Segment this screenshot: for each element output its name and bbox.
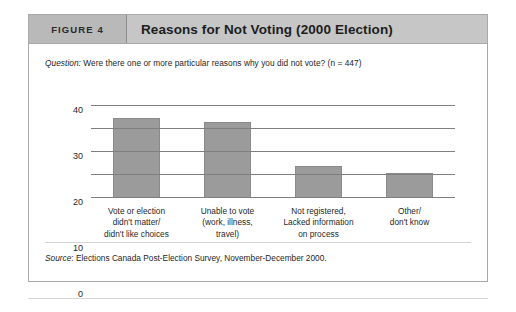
figure-page: FIGURE 4 Reasons for Not Voting (2000 El… (0, 0, 516, 312)
category-label: Other/don't know (364, 206, 455, 229)
question-lead: Question: (45, 58, 81, 68)
source-note: Source: Elections Canada Post-Election S… (45, 253, 327, 263)
category-label-line: didn't matter/ (91, 217, 182, 228)
bar (386, 173, 433, 198)
bar (204, 122, 251, 198)
category-label: Unable to vote(work, illness,travel) (182, 206, 273, 240)
question-annotation: Question: Were there one or more particu… (45, 58, 361, 68)
category-label-line: didn't like choices (91, 229, 182, 240)
category-label-line: Vote or election (91, 206, 182, 217)
category-label-line: Not registered, (273, 206, 364, 217)
figure-title: Reasons for Not Voting (2000 Election) (127, 15, 487, 43)
figure-number-label: FIGURE 4 (29, 15, 127, 43)
question-text: Were there one or more particular reason… (81, 58, 362, 68)
bar (113, 118, 160, 199)
category-label-line: on process (273, 229, 364, 240)
source-divider (45, 242, 471, 243)
source-lead: Source (45, 253, 71, 263)
category-label-line: Other/ (364, 206, 455, 217)
figure-body: Question: Were there one or more particu… (29, 44, 487, 281)
y-axis-tick-label: 40 (73, 105, 83, 106)
gridline: 30 (91, 128, 455, 129)
bar (295, 166, 342, 198)
plot-area: 010203040 (91, 106, 455, 198)
gridline: 0 (91, 197, 455, 198)
category-label-line: don't know (364, 217, 455, 228)
category-label: Not registered,Lacked informationon proc… (273, 206, 364, 240)
category-label: Vote or electiondidn't matter/didn't lik… (91, 206, 182, 240)
source-text: : Elections Canada Post-Election Survey,… (71, 253, 326, 263)
bar-chart: 010203040 Vote or electiondidn't matter/… (45, 106, 473, 248)
figure-header: FIGURE 4 Reasons for Not Voting (2000 El… (29, 15, 487, 44)
figure-box: FIGURE 4 Reasons for Not Voting (2000 El… (28, 14, 488, 282)
bars-layer (91, 106, 455, 198)
category-label-line: travel) (182, 229, 273, 240)
gridline: 20 (91, 151, 455, 152)
page-bottom-divider (28, 298, 488, 299)
gridline: 10 (91, 174, 455, 175)
gridline: 40 (91, 105, 455, 106)
category-label-line: Unable to vote (182, 206, 273, 217)
category-label-line: (work, illness, (182, 217, 273, 228)
category-label-line: Lacked information (273, 217, 364, 228)
